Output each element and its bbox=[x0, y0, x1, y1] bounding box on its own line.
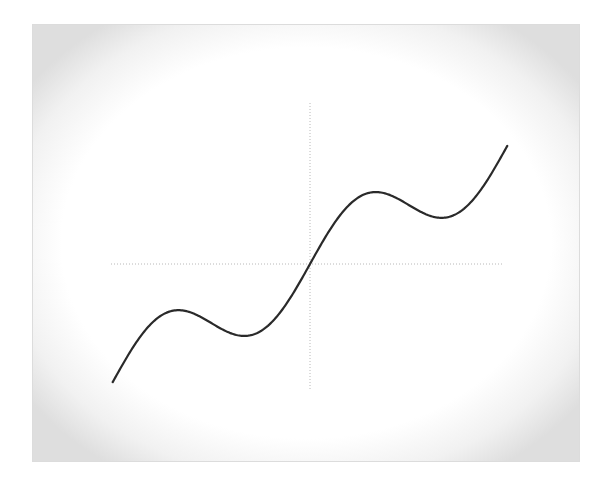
plot-area bbox=[0, 0, 609, 484]
